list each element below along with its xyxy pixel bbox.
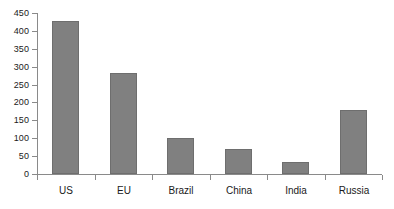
y-axis-tick <box>32 102 37 103</box>
y-axis-tick <box>32 85 37 86</box>
y-axis-tick <box>32 120 37 121</box>
x-axis-tick <box>152 175 153 180</box>
x-axis-tick <box>37 175 38 180</box>
category-label-eu: EU <box>95 185 153 197</box>
y-axis-tick-label: 150 <box>0 116 29 125</box>
bar-eu <box>110 73 137 174</box>
y-axis-tick-label: 450 <box>0 9 29 18</box>
y-axis-tick-label: 200 <box>0 98 29 107</box>
bar-india <box>282 162 309 174</box>
y-axis-tick-label: 300 <box>0 63 29 72</box>
y-axis-tick-label: 50 <box>0 152 29 161</box>
y-axis-tick <box>32 67 37 68</box>
bar-brazil <box>167 138 194 174</box>
y-axis-tick-label: 400 <box>0 27 29 36</box>
y-axis-tick <box>32 31 37 32</box>
x-axis-tick <box>325 175 326 180</box>
category-label-india: India <box>267 185 325 197</box>
y-axis-tick-label: 0 <box>0 170 29 179</box>
y-axis-tick-label: 100 <box>0 134 29 143</box>
category-label-brazil: Brazil <box>152 185 210 197</box>
x-axis-tick <box>267 175 268 180</box>
bar-us <box>52 21 79 174</box>
y-axis-tick-label: 250 <box>0 81 29 90</box>
bar-russia <box>340 110 367 174</box>
x-axis-tick <box>95 175 96 180</box>
y-axis-line <box>37 13 38 174</box>
y-axis-tick-label: 350 <box>0 45 29 54</box>
y-axis-tick <box>32 156 37 157</box>
y-axis-tick <box>32 138 37 139</box>
category-label-china: China <box>210 185 268 197</box>
category-label-us: US <box>37 185 95 197</box>
bar-china <box>225 149 252 174</box>
y-axis-tick <box>32 13 37 14</box>
y-axis-tick <box>32 49 37 50</box>
x-axis-tick <box>382 175 383 180</box>
bar-chart: 450400350300250200150100500 USEUBrazilCh… <box>0 0 394 209</box>
category-label-russia: Russia <box>325 185 383 197</box>
x-axis-tick <box>210 175 211 180</box>
